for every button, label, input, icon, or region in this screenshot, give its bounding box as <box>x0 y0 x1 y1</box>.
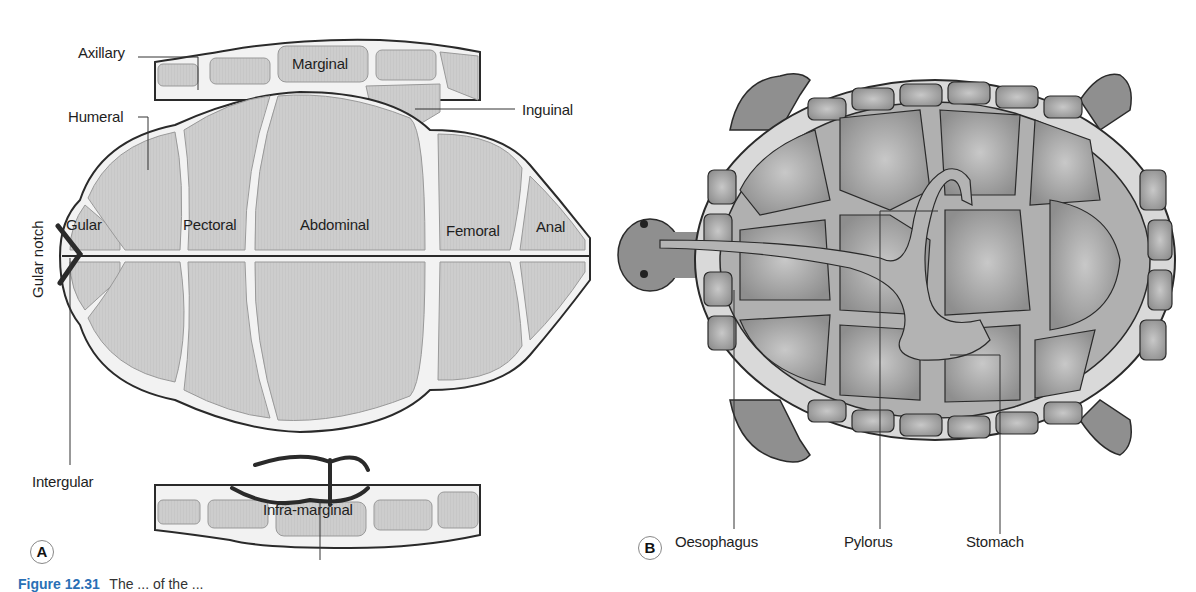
label-anal: Anal <box>536 218 565 235</box>
figure-caption: Figure 12.31 The ... of the ... <box>18 576 204 592</box>
label-axillary: Axillary <box>78 44 125 61</box>
panel-letter-b: B <box>638 536 662 560</box>
label-gular-notch: Gular notch <box>29 220 46 298</box>
label-infra-marginal: Infra-marginal <box>263 501 353 518</box>
label-abdominal: Abdominal <box>300 216 369 233</box>
panel-a-plastron: Axillary Marginal Inguinal Humeral Gular… <box>0 0 600 586</box>
label-pylorus: Pylorus <box>844 533 893 550</box>
label-intergular: Intergular <box>32 473 93 490</box>
turtle-illustration <box>600 0 1196 586</box>
panel-b-digestive-tract: Oesophagus Pylorus Stomach B <box>600 0 1196 586</box>
label-marginal: Marginal <box>292 55 348 72</box>
label-inguinal: Inguinal <box>522 101 573 118</box>
figure-number: Figure 12.31 <box>18 576 100 592</box>
label-humeral: Humeral <box>68 108 123 125</box>
panel-letter-a: A <box>30 540 54 564</box>
plastron-illustration <box>0 0 600 586</box>
label-pectoral: Pectoral <box>183 216 236 233</box>
label-femoral: Femoral <box>446 222 500 239</box>
figure-caption-text: The ... of the ... <box>109 576 203 592</box>
label-gular: Gular <box>66 216 102 233</box>
label-oesophagus: Oesophagus <box>675 533 758 550</box>
label-stomach: Stomach <box>966 533 1024 550</box>
